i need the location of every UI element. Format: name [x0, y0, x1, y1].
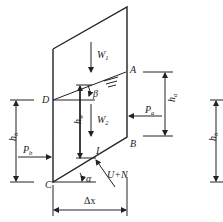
water-symbol	[104, 77, 118, 87]
hb-right-label: hb	[207, 132, 219, 141]
w2-label: W2	[97, 114, 109, 126]
point-b-label: B	[130, 138, 136, 149]
hb-label: hb	[7, 132, 19, 141]
slice-outline	[53, 7, 127, 182]
alpha-arc	[80, 173, 82, 181]
pa-label: Pa	[144, 104, 154, 116]
w1-label: W1	[97, 49, 109, 61]
pb-label: Pb	[22, 144, 33, 156]
point-i-label: I	[95, 145, 100, 156]
point-c-label: C	[45, 179, 52, 190]
point-a-label: A	[129, 64, 137, 75]
beta-label: β	[92, 88, 98, 99]
right-partial-figure: hb	[207, 100, 223, 182]
hw-label: hw	[72, 114, 84, 124]
ha-label: ha	[166, 94, 178, 102]
point-d-label: D	[41, 94, 50, 105]
alpha-label: α	[86, 173, 92, 184]
slice-diagram: W1 β W2 hw I α U+N A B C D ha Pa hb Pb Δ…	[0, 0, 223, 222]
un-label: U+N	[107, 169, 129, 180]
dx-label: Δx	[84, 195, 95, 206]
